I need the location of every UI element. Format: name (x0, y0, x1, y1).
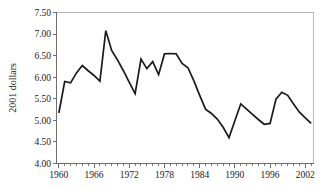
x-tick-label: 1978 (155, 170, 174, 180)
y-tick-label: 7.00 (34, 29, 51, 39)
x-tick-label: 1966 (85, 170, 104, 180)
y-tick-label: 4.50 (34, 137, 51, 147)
line-chart: 4.004.505.005.506.006.507.007.50 1960196… (0, 0, 325, 190)
series-line-2001-dollars (59, 31, 311, 138)
y-tick-label: 7.50 (34, 8, 51, 18)
plot-frame (57, 13, 314, 164)
y-tick-label: 5.50 (34, 94, 51, 104)
x-tick-label: 1960 (49, 170, 68, 180)
y-tick-label: 6.00 (34, 73, 51, 83)
y-tick-label: 5.00 (34, 116, 51, 126)
plot-border-top-right (57, 13, 314, 164)
x-axis-tick-labels: 19601966197219781984199019962002 (49, 170, 315, 180)
data-series-line (59, 31, 311, 138)
chart-figure: 4.004.505.005.506.006.507.007.50 1960196… (0, 0, 325, 190)
y-axis-title: 2001 dollars (7, 63, 18, 113)
x-tick-label: 2002 (296, 170, 315, 180)
x-tick-label: 1996 (261, 170, 280, 180)
y-axis-tick-labels: 4.004.505.005.506.006.507.007.50 (34, 8, 51, 169)
y-tick-label: 6.50 (34, 51, 51, 61)
x-tick-label: 1990 (225, 170, 244, 180)
x-tick-label: 1972 (120, 170, 139, 180)
y-axis-title-text: 2001 dollars (7, 63, 18, 113)
x-axis-ticks (59, 164, 311, 168)
axis-left-bottom (57, 13, 314, 164)
x-tick-label: 1984 (190, 170, 209, 180)
y-tick-label: 4.00 (34, 159, 51, 169)
